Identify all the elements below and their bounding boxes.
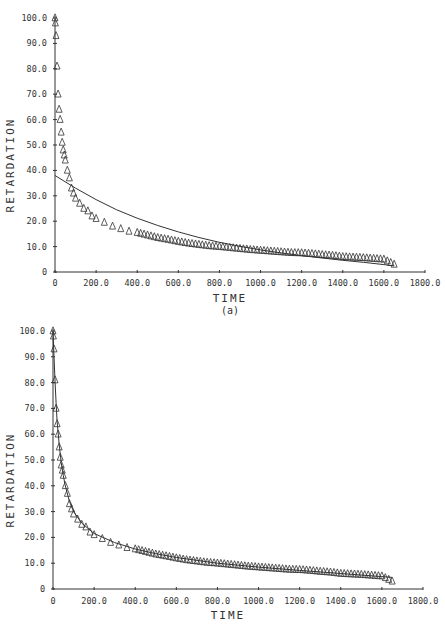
y-tick-label: 70.0	[25, 403, 45, 413]
x-tick-label: 200.0	[81, 596, 107, 606]
y-tick-label: 60.0	[25, 429, 45, 439]
figure: 010.020.030.040.050.060.070.080.090.0100…	[0, 0, 445, 624]
triangle-marker	[101, 218, 107, 225]
triangle-marker	[73, 194, 79, 201]
y-tick-label: 0	[40, 584, 45, 594]
x-tick-label: 800.0	[207, 278, 233, 288]
triangle-marker	[110, 222, 116, 229]
triangle-marker	[53, 32, 59, 39]
triangle-marker	[89, 212, 95, 219]
y-tick-label: 80.0	[25, 378, 45, 388]
fit-curve	[55, 176, 394, 266]
y-tick-label: 50.0	[27, 140, 47, 150]
x-tick-label: 1400.0	[325, 596, 356, 606]
x-tick-label: 1200.0	[286, 278, 317, 288]
y-tick-label: 90.0	[27, 38, 47, 48]
x-axis-title: TIME	[213, 292, 248, 305]
y-tick-label: 50.0	[25, 455, 45, 465]
x-tick-label: 1800.0	[408, 596, 439, 606]
chart-panel-top: 010.020.030.040.050.060.070.080.090.0100…	[4, 13, 440, 316]
x-tick-label: 400.0	[122, 596, 148, 606]
y-tick-label: 70.0	[27, 89, 47, 99]
x-tick-label: 1600.0	[367, 596, 398, 606]
x-tick-label: 1600.0	[369, 278, 400, 288]
y-tick-label: 40.0	[25, 481, 45, 491]
y-tick-label: 90.0	[25, 352, 45, 362]
y-tick-label: 20.0	[25, 532, 45, 542]
triangle-marker	[59, 138, 65, 145]
triangle-marker	[55, 90, 61, 97]
y-axis-title: RETARDATION	[4, 118, 17, 213]
x-tick-label: 0	[50, 596, 55, 606]
x-tick-label: 800.0	[205, 596, 231, 606]
triangle-marker	[81, 204, 87, 211]
y-tick-label: 0	[42, 267, 47, 277]
y-tick-label: 10.0	[25, 558, 45, 568]
y-tick-label: 40.0	[27, 165, 47, 175]
data-markers	[50, 327, 395, 584]
y-tick-label: 10.0	[27, 242, 47, 252]
triangle-marker	[58, 128, 64, 135]
triangle-marker	[61, 151, 67, 158]
triangle-marker	[60, 146, 66, 153]
x-tick-label: 400.0	[124, 278, 150, 288]
triangle-marker	[85, 207, 91, 214]
x-tick-label: 1200.0	[284, 596, 315, 606]
x-tick-label: 1000.0	[245, 278, 276, 288]
x-tick-label: 600.0	[166, 278, 192, 288]
y-tick-label: 60.0	[27, 115, 47, 125]
triangle-marker	[126, 227, 132, 234]
triangle-marker	[56, 105, 62, 112]
chart-panel-bottom: 010.020.030.040.050.060.070.080.090.0100…	[4, 326, 438, 622]
x-tick-label: 1800.0	[410, 278, 441, 288]
y-axis-title: RETARDATION	[4, 433, 17, 528]
triangle-marker	[77, 199, 83, 206]
figure-caption: (a)	[221, 305, 239, 316]
x-axis-title: TIME	[211, 609, 246, 622]
y-tick-label: 20.0	[27, 216, 47, 226]
y-tick-label: 80.0	[27, 64, 47, 74]
y-tick-label: 30.0	[25, 507, 45, 517]
x-tick-label: 1400.0	[327, 278, 358, 288]
y-tick-label: 100.0	[19, 326, 45, 336]
triangle-marker	[64, 166, 70, 173]
x-tick-label: 1000.0	[243, 596, 274, 606]
triangle-marker	[118, 225, 124, 232]
y-tick-label: 30.0	[27, 191, 47, 201]
triangle-marker	[93, 214, 99, 221]
x-tick-label: 200.0	[83, 278, 109, 288]
data-markers	[52, 14, 397, 267]
x-tick-label: 600.0	[164, 596, 190, 606]
triangle-marker	[62, 156, 68, 163]
triangle-marker	[57, 115, 63, 122]
triangle-marker	[66, 174, 72, 181]
fit-curve	[53, 331, 392, 577]
y-tick-label: 100.0	[21, 13, 47, 23]
x-tick-label: 0	[52, 278, 57, 288]
